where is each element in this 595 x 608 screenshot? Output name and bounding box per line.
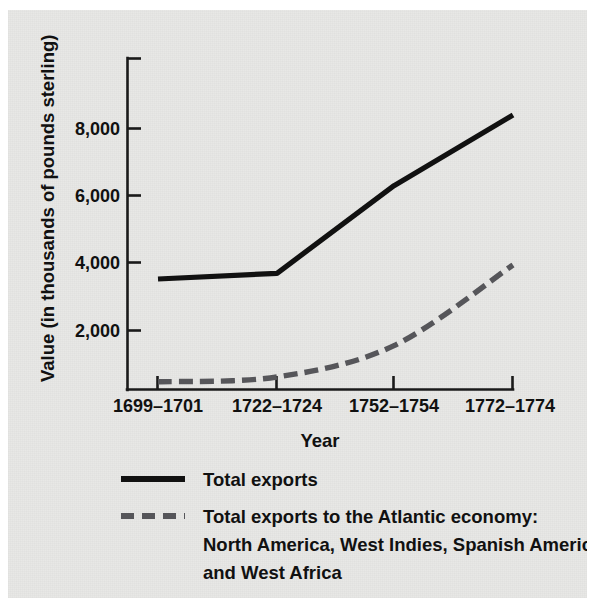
legend-label-total-exports: Total exports <box>203 469 318 490</box>
series-atlantic-economy-exports <box>158 265 513 382</box>
series-total-exports <box>158 115 513 279</box>
y-axis-title: Value (in thousands of pounds sterling) <box>37 35 58 382</box>
x-tick-label-2: 1722–1724 <box>232 396 322 416</box>
x-tick-label-4: 1772–1774 <box>465 396 555 416</box>
x-axis-title: Year <box>300 430 339 451</box>
y-tick-label-8000: 8,000 <box>75 119 120 139</box>
chart-figure: Value (in thousands of pounds sterling) … <box>8 10 587 598</box>
y-tick-label-2000: 2,000 <box>75 321 120 341</box>
legend-item-atlantic-economy: Total exports to the Atlantic economy: N… <box>121 506 587 583</box>
y-tick-label-4000: 4,000 <box>75 253 120 273</box>
x-tick-label-1: 1699–1701 <box>113 396 203 416</box>
legend-label-atlantic-line-1: Total exports to the Atlantic economy: <box>203 506 538 527</box>
legend-label-atlantic-line-3: and West Africa <box>203 562 342 583</box>
chart-legend: Total exports Total exports to the Atlan… <box>121 469 587 583</box>
x-tick-label-3: 1752–1754 <box>349 396 439 416</box>
legend-item-total-exports: Total exports <box>121 469 318 490</box>
legend-label-atlantic-line-2: North America, West Indies, Spanish Amer… <box>203 534 587 555</box>
y-tick-label-6000: 6,000 <box>75 186 120 206</box>
line-chart: Value (in thousands of pounds sterling) … <box>8 10 587 598</box>
